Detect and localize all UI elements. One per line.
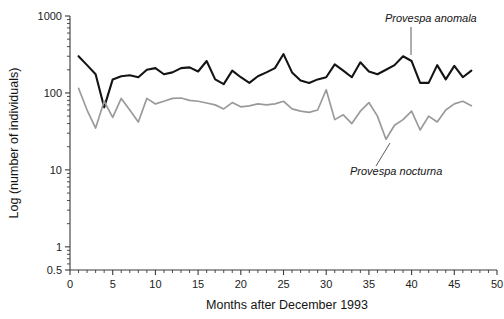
y-tick-label: 1 (56, 241, 62, 253)
y-tick-label: 100 (44, 87, 62, 99)
x-tick-label: 0 (67, 278, 73, 290)
x-axis-title: Months after December 1993 (206, 298, 368, 312)
chart-figure: 10001001010.5 05101520253035404550 Prove… (0, 0, 504, 319)
x-tick-label: 40 (405, 278, 417, 290)
x-tick-label: 20 (235, 278, 247, 290)
series-annotation-label: Provespa nocturna (350, 165, 442, 177)
series-annotation-label: Provespa anomala (385, 12, 477, 24)
y-tick-label: 1000 (38, 10, 62, 22)
y-tick-label: 10 (50, 164, 62, 176)
x-tick-label: 45 (448, 278, 460, 290)
provespa-population-line-chart: 10001001010.5 05101520253035404550 Prove… (0, 0, 504, 319)
x-tick-label: 50 (491, 278, 503, 290)
y-tick-label: 0.5 (47, 264, 62, 276)
x-tick-label: 25 (277, 278, 289, 290)
x-tick-label: 5 (110, 278, 116, 290)
x-tick-label: 35 (363, 278, 375, 290)
x-tick-label: 30 (320, 278, 332, 290)
x-tick-label: 15 (192, 278, 204, 290)
x-tick-label: 10 (149, 278, 161, 290)
y-axis-title: Log (number of individuals) (7, 68, 21, 219)
